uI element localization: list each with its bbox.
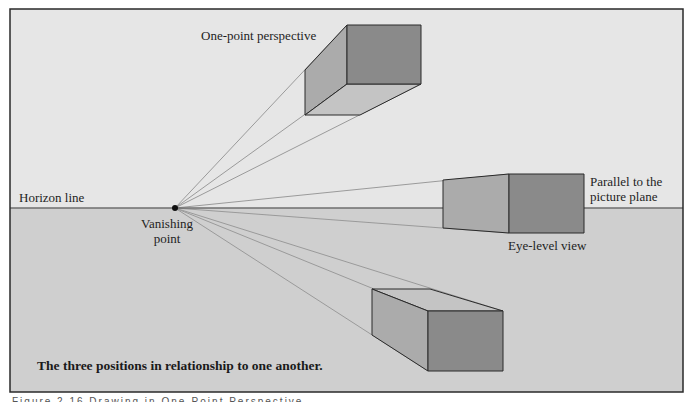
one-point-perspective-label: One-point perspective xyxy=(201,28,316,43)
inner-caption: The three positions in relationship to o… xyxy=(37,358,323,374)
vanishing-point-label-line2: point xyxy=(122,231,212,246)
perspective-diagram xyxy=(0,0,692,402)
perspective-figure: One-point perspective Horizon line Vanis… xyxy=(0,0,692,402)
vanishing-point-label-line1: Vanishing xyxy=(122,216,212,231)
box-front-face xyxy=(509,174,584,233)
parallel-label-line1: Parallel to the xyxy=(590,174,662,189)
vanishing-point-label: Vanishing point xyxy=(122,216,212,246)
parallel-picture-plane-label: Parallel to the picture plane xyxy=(590,174,662,204)
parallel-label-line2: picture plane xyxy=(590,189,662,204)
figure-caption: Figure 2.16 Drawing in One-Point Perspec… xyxy=(12,393,303,402)
horizon-line-label: Horizon line xyxy=(19,190,84,205)
eye-level-view-label: Eye-level view xyxy=(508,238,586,253)
box-front-face xyxy=(428,311,503,371)
box-side-face xyxy=(443,174,509,233)
box-front-face xyxy=(347,25,421,84)
eye-level-box xyxy=(443,174,584,233)
vanishing-point-dot xyxy=(172,205,178,211)
